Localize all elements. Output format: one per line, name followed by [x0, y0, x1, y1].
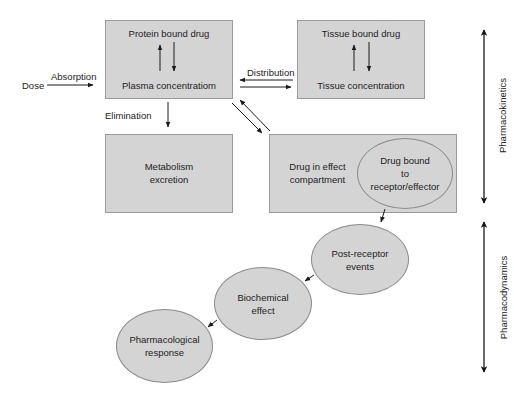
to-effect-arrow: [232, 103, 262, 133]
receptor-line3: receptor/effector: [370, 180, 439, 193]
pharmacokinetics-axis-label: Pharmacokinetics: [497, 71, 508, 161]
tissue-concentration-label: Tissue concentration: [297, 79, 425, 92]
protein-bound-drug-label: Protein bound drug: [105, 27, 233, 40]
biochemical-effect-ellipse: Biochemical effect: [214, 267, 312, 340]
absorption-label: Absorption: [51, 71, 96, 83]
drug-bound-receptor-ellipse: Drug bound to receptor/effector: [357, 138, 453, 209]
elimination-label: Elimination: [105, 110, 151, 122]
effect-line1: Drug in effect: [275, 160, 360, 173]
pharmacological-line1: Pharmacological: [129, 333, 199, 346]
post-to-biochemical-arrow: [305, 275, 314, 281]
receptor-line2: to: [370, 167, 439, 180]
biochemical-line1: Biochemical: [237, 291, 288, 304]
pharmacodynamics-axis-label: Pharmacodynamics: [498, 250, 509, 346]
post-receptor-line2: events: [331, 260, 388, 273]
biochemical-line2: effect: [237, 304, 288, 317]
biochemical-to-pharmacological-arrow: [208, 320, 217, 327]
pk-pd-diagram: Protein bound drug Plasma concentratiom …: [0, 0, 514, 402]
tissue-bound-drug-label: Tissue bound drug: [297, 27, 425, 40]
plasma-concentration-label: Plasma concentratiom: [105, 79, 233, 92]
metabolism-line1: Metabolism: [105, 160, 233, 173]
distribution-label: Distribution: [247, 67, 295, 79]
dose-label: Dose: [22, 80, 44, 92]
from-effect-arrow: [240, 100, 270, 131]
metabolism-label: Metabolism excretion: [105, 160, 233, 186]
pharmacological-response-ellipse: Pharmacological response: [116, 309, 213, 383]
metabolism-line2: excretion: [105, 173, 233, 186]
effect-line2: compartment: [275, 173, 360, 186]
effect-compartment-label: Drug in effect compartment: [275, 160, 360, 186]
pharmacological-line2: response: [129, 346, 199, 359]
receptor-line1: Drug bound: [370, 154, 439, 167]
post-receptor-events-ellipse: Post-receptor events: [311, 224, 409, 295]
post-receptor-line1: Post-receptor: [331, 247, 388, 260]
